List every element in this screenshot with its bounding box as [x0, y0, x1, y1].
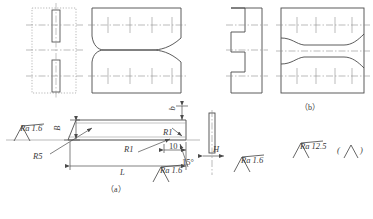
dim-label-B: B — [53, 126, 62, 131]
dim-label-angle: 15° — [182, 158, 194, 167]
roughness-label-general: Ra 12.5 — [300, 142, 326, 151]
roughness-bracket-open: ( — [337, 146, 340, 155]
roughness-label-bottom-right: Ra 1.6 — [241, 156, 263, 165]
centerlines-view-b — [276, 17, 370, 84]
dim-label-R1-right: R1 — [163, 128, 172, 137]
view-front-lower-blade — [92, 50, 181, 93]
roughness-label-bottom-mid: Ra 1.6 — [160, 166, 182, 175]
centerlines-left-view — [26, 25, 84, 76]
view-end-profile-notched — [231, 8, 262, 93]
dim-label-H: H — [213, 145, 219, 154]
roughness-label-left: Ra 1.6 — [20, 124, 42, 133]
caption-a: （a） — [106, 186, 126, 194]
dim-label-R1-left: R1 — [124, 145, 133, 154]
dim-b-line — [176, 106, 188, 120]
technical-drawing-figure: Ra 1.6 B R5 L R1 R1 10 b 15° H Ra 1.6 Ra… — [0, 0, 373, 219]
dim-label-R5: R5 — [33, 152, 42, 161]
view-b-front — [281, 8, 364, 93]
caption-b: （b） — [300, 104, 320, 112]
roughness-bracket-close: ) — [360, 146, 363, 155]
dim-label-L: L — [120, 168, 125, 177]
view-top-left-end — [32, 3, 76, 98]
view-front-upper-blade — [92, 8, 181, 50]
dim-label-b: b — [168, 106, 177, 110]
dim-label-10: 10 — [169, 142, 178, 151]
